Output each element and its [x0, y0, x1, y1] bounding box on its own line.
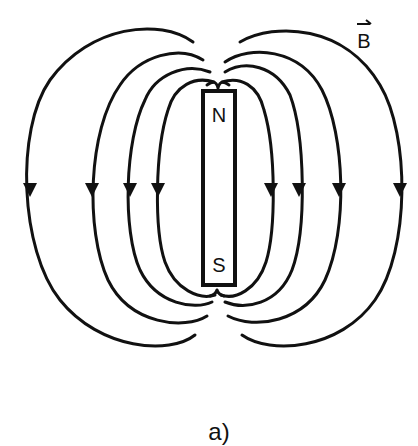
north-pole-cusp	[207, 82, 229, 88]
arrow-down-icon	[292, 183, 306, 197]
left-field-lines	[27, 29, 215, 346]
arrow-down-icon	[85, 183, 99, 197]
south-pole-cusp	[210, 290, 224, 296]
right-field-lines	[221, 31, 402, 346]
figure-caption: a)	[208, 418, 229, 445]
arrow-down-icon	[23, 183, 37, 197]
field-line-right-outer	[240, 31, 402, 346]
field-line-right-2	[225, 52, 341, 322]
field-line-left-2	[93, 53, 207, 323]
arrow-down-icon	[393, 183, 407, 197]
arrow-down-icon	[332, 183, 346, 197]
arrow-down-icon	[151, 183, 165, 197]
field-vector-label: B	[357, 30, 370, 52]
arrow-down-icon	[264, 183, 278, 197]
magnet-field-diagram: N S B a)	[0, 0, 418, 446]
north-pole-label: N	[212, 104, 226, 126]
south-pole-label: S	[212, 254, 225, 276]
arrow-down-icon	[123, 183, 137, 197]
field-lines-canvas: N S B a)	[0, 0, 418, 446]
